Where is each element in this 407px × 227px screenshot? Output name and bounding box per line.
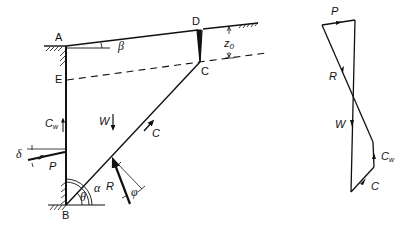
backfill-surface-AD <box>66 30 198 46</box>
polygon-label-R: R <box>329 70 337 82</box>
P-arrow <box>28 152 65 160</box>
polygon-label-C: C <box>371 180 379 192</box>
polygon-label-W: W <box>335 118 347 130</box>
label-D: D <box>192 15 200 27</box>
label-phi: φ <box>131 185 138 199</box>
polygon-R <box>322 25 373 142</box>
force-polygon <box>322 20 376 192</box>
label-theta: θ <box>80 190 86 204</box>
normal-to-slip-plane <box>113 159 142 189</box>
label-C-force: C <box>152 127 160 139</box>
label-z0: z0 <box>223 37 235 51</box>
C-arrow <box>144 122 152 131</box>
label-Cw: Cw <box>45 117 59 130</box>
beta-arc <box>101 43 102 48</box>
label-P: P <box>49 160 57 172</box>
ground-hatch-top-left <box>44 46 66 66</box>
polygon-label-P: P <box>331 5 339 17</box>
label-beta: β <box>117 39 124 53</box>
label-C-point: C <box>201 65 209 77</box>
label-A: A <box>55 31 63 43</box>
wedge-diagram: β A D E C z0 <box>0 0 407 227</box>
slip-plane-BC <box>66 62 200 205</box>
label-B: B <box>62 209 69 221</box>
label-R: R <box>106 180 114 192</box>
label-delta: δ <box>16 147 22 161</box>
label-E: E <box>55 73 62 85</box>
label-alpha: α <box>94 181 101 195</box>
label-W: W <box>99 115 111 127</box>
tension-crack-depth-line <box>67 53 266 80</box>
polygon-W <box>351 20 355 192</box>
wall-wedge-figure: β A D E C z0 <box>16 15 266 221</box>
polygon-label-Cw: Cw <box>381 150 395 163</box>
